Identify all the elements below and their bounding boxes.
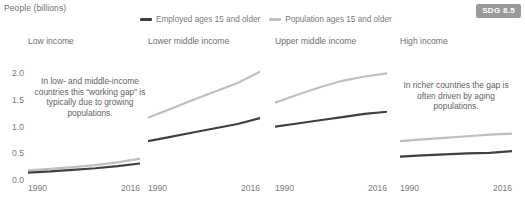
x-tick-label-end: 2016 bbox=[368, 183, 387, 193]
legend-swatch-population bbox=[269, 18, 281, 21]
data-line bbox=[275, 73, 387, 102]
data-line bbox=[148, 118, 260, 141]
chart-panel: Upper middle income19902016 bbox=[275, 36, 387, 214]
data-line bbox=[400, 134, 512, 141]
x-tick-label-start: 1990 bbox=[400, 183, 419, 193]
data-line bbox=[148, 72, 260, 118]
chart-plot-area: 0.00.51.01.52.0 Low income19902016In low… bbox=[0, 36, 525, 214]
legend-label-population: Population ages 15 and older bbox=[285, 15, 392, 24]
chart-panel: Low income19902016In low- and middle-inc… bbox=[28, 36, 140, 214]
sdg-badge: SDG 8.5 bbox=[476, 4, 521, 18]
x-tick-label-start: 1990 bbox=[148, 183, 167, 193]
x-tick-label-end: 2016 bbox=[241, 183, 260, 193]
x-tick-label-end: 2016 bbox=[493, 183, 512, 193]
legend-item-population: Population ages 15 and older bbox=[269, 15, 392, 24]
legend-item-employed: Employed ages 15 and older bbox=[140, 15, 260, 24]
panel-annotation: In richer countries the gap is often dri… bbox=[400, 80, 512, 112]
data-line bbox=[28, 163, 140, 172]
legend-swatch-employed bbox=[140, 18, 152, 21]
data-line bbox=[400, 151, 512, 156]
data-line bbox=[275, 112, 387, 127]
y-tick-label: 1.0 bbox=[12, 122, 24, 132]
x-tick-label-start: 1990 bbox=[28, 183, 47, 193]
x-tick-label-end: 2016 bbox=[121, 183, 140, 193]
legend-label-employed: Employed ages 15 and older bbox=[156, 15, 260, 24]
y-tick-label: 2.0 bbox=[12, 68, 24, 78]
y-tick-label: 1.5 bbox=[12, 95, 24, 105]
y-tick-label: 0.5 bbox=[12, 148, 24, 158]
x-tick-label-start: 1990 bbox=[275, 183, 294, 193]
axis-title: People (billions) bbox=[4, 3, 66, 13]
chart-panel: Lower middle income19902016 bbox=[148, 36, 260, 214]
y-axis-labels: 0.00.51.01.52.0 bbox=[0, 36, 26, 214]
panel-annotation: In low- and middle-income countries this… bbox=[32, 76, 148, 118]
chart-legend: Employed ages 15 and older Population ag… bbox=[140, 15, 392, 24]
chart-panel: High income19902016In richer countries t… bbox=[400, 36, 512, 214]
y-tick-label: 0.0 bbox=[12, 175, 24, 185]
